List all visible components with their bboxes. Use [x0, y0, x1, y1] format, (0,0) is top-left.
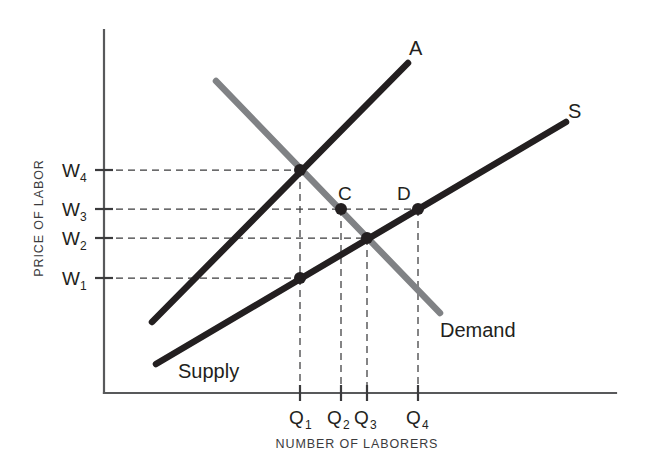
point-label-d: D: [397, 183, 411, 204]
x-axis-title: NUMBER OF LABORERS: [276, 437, 439, 451]
curve-label-s: S: [568, 100, 581, 122]
y-tick-label-w2-subscript: 2: [80, 239, 87, 253]
curve-label-demand: Demand: [440, 319, 516, 341]
x-tick-label-q2: Q: [327, 407, 342, 428]
x-tick-label-q3: Q: [354, 407, 369, 428]
y-tick-label-w2: W: [62, 228, 80, 249]
y-tick-label-w1-subscript: 1: [80, 279, 87, 293]
curve-label-supply: Supply: [178, 360, 239, 382]
axis-titles: PRICE OF LABOR NUMBER OF LABORERS: [32, 159, 438, 451]
y-tick-label-w4-subscript: 4: [80, 171, 87, 185]
point-equilibrium: [361, 232, 373, 244]
curve-label-a: A: [409, 37, 423, 59]
point-d: [412, 203, 424, 215]
point-supply-w1: [294, 272, 306, 284]
point-intersection-a-demand: [294, 164, 306, 176]
line-a-curve: [152, 63, 408, 322]
x-tick-labels: Q 1 Q 2 Q 3 Q 4: [289, 407, 429, 432]
x-tick-label-q2-subscript: 2: [343, 418, 350, 432]
x-tick-label-q4-subscript: 4: [422, 418, 429, 432]
chart-canvas: W 4 W 3 W 2 W 1 Q 1 Q 2 Q 3 Q 4 PRICE OF…: [0, 0, 647, 475]
y-tick-label-w3: W: [62, 199, 80, 220]
y-tick-label-w1: W: [62, 268, 80, 289]
point-c: [335, 203, 347, 215]
axes-group: [104, 30, 616, 393]
y-tick-label-w3-subscript: 3: [80, 210, 87, 224]
y-axis-title: PRICE OF LABOR: [32, 159, 46, 276]
x-tick-label-q1-subscript: 1: [305, 418, 312, 432]
x-tick-label-q3-subscript: 3: [370, 418, 377, 432]
y-tick-label-w4: W: [62, 160, 80, 181]
y-tick-labels: W 4 W 3 W 2 W 1: [62, 160, 87, 293]
x-tick-label-q4: Q: [406, 407, 421, 428]
horizontal-guide-lines: [104, 170, 418, 278]
labor-market-supply-demand-figure: W 4 W 3 W 2 W 1 Q 1 Q 2 Q 3 Q 4 PRICE OF…: [0, 0, 647, 475]
x-tick-label-q1: Q: [289, 407, 304, 428]
point-label-c: C: [338, 183, 352, 204]
